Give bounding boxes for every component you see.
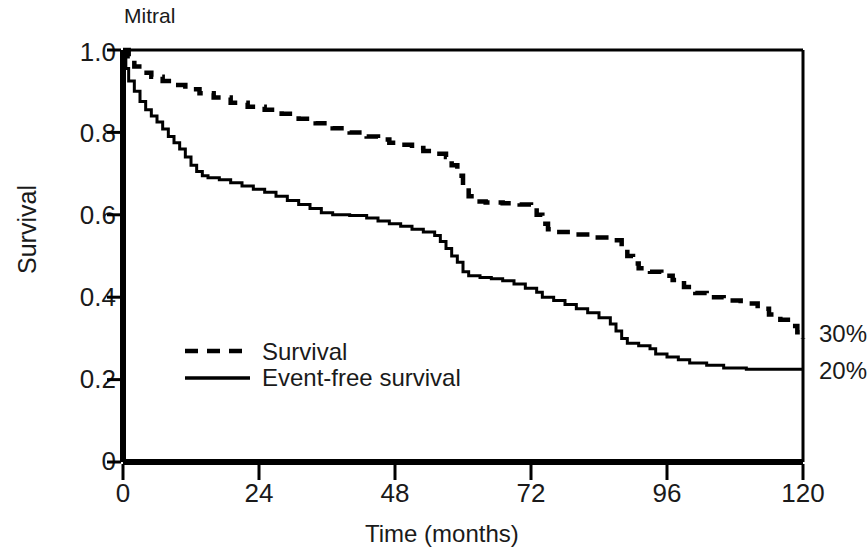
x-axis-ticks — [123, 464, 803, 480]
legend-swatches — [185, 351, 250, 378]
curve-event-free-survival — [123, 50, 803, 369]
axis-frame — [123, 50, 803, 462]
y-axis-ticks — [107, 50, 121, 462]
series-group — [123, 50, 803, 369]
curve-survival — [123, 50, 803, 338]
